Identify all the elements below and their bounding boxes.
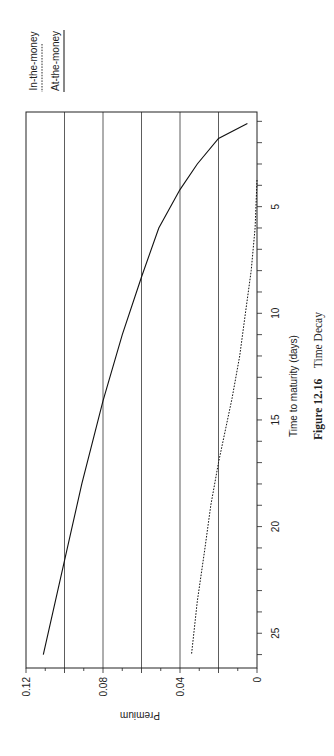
days-tick-label: 5 — [270, 203, 281, 209]
legend-label: In-the-money — [28, 32, 39, 91]
legend: In-the-moneyAt-the-money — [28, 30, 64, 92]
time-decay-chart: 510152025 00.040.080.12 In-the-moneyAt-t… — [0, 0, 334, 756]
days-tick-label: 10 — [270, 307, 281, 319]
series-lines — [43, 124, 257, 655]
at-the-money-line — [43, 124, 247, 655]
premium-tick-label: 0.12 — [21, 677, 32, 697]
figure-title: Time Decay — [312, 312, 325, 368]
premium-tick-label: 0.08 — [98, 677, 109, 697]
premium-tick-label: 0.04 — [175, 677, 186, 697]
legend-label: At-the-money — [50, 31, 61, 91]
days-tick-label: 20 — [270, 521, 281, 533]
figure-number: Figure 12.16 — [312, 379, 325, 440]
premium-tick-label: 0 — [252, 677, 263, 683]
premium-gridlines — [65, 112, 219, 668]
time-axis-ticks: 510152025 — [257, 121, 281, 654]
in-the-money-line — [192, 180, 258, 655]
x-axis-title: Time to maturity (days) — [288, 335, 299, 437]
days-tick-label: 25 — [270, 627, 281, 639]
premium-axis-ticks: 00.040.080.12 — [21, 668, 263, 696]
y-axis-title: Premium — [120, 710, 160, 721]
figure-caption: Figure 12.16 Time Decay — [312, 312, 325, 440]
days-tick-label: 15 — [270, 414, 281, 426]
